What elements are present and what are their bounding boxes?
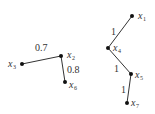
node-x7 (125, 101, 129, 105)
svg-text:5: 5 (140, 75, 143, 81)
svg-text:3: 3 (13, 64, 16, 70)
node-label-x2: x 2 (66, 49, 75, 61)
edge-weight-x1-x4: 1 (111, 26, 116, 37)
node-x3 (20, 62, 24, 66)
svg-text:6: 6 (74, 85, 77, 91)
node-label-x6: x 6 (68, 79, 77, 91)
edge-x3-x2 (22, 56, 61, 64)
edge-weight-x5-x7: 1 (121, 84, 126, 95)
node-label-x4: x 4 (112, 42, 121, 54)
node-label-x5: x 5 (134, 69, 143, 81)
edge-weight-x3-x2: 0.7 (35, 42, 48, 53)
svg-text:2: 2 (72, 55, 75, 61)
edge-weight-x4-x5: 1 (114, 63, 119, 74)
node-x2 (59, 54, 63, 58)
node-label-x7: x 7 (130, 97, 139, 109)
diagram-canvas: 0.7 0.8 x 3 x 2 x 6 1 1 1 x 1 (0, 0, 155, 114)
svg-text:4: 4 (118, 48, 121, 54)
node-x1 (130, 14, 134, 18)
left-tree: 0.7 0.8 x 3 x 2 x 6 (7, 42, 80, 91)
node-label-x3: x 3 (7, 58, 16, 70)
node-x4 (106, 46, 110, 50)
edge-x2-x6 (61, 56, 65, 82)
edge-weight-x2-x6: 0.8 (67, 64, 80, 75)
svg-text:7: 7 (136, 103, 139, 109)
node-x6 (63, 80, 67, 84)
node-x5 (129, 72, 133, 76)
svg-text:1: 1 (143, 16, 146, 22)
right-tree: 1 1 1 x 1 x 4 x 5 x 7 (106, 10, 146, 109)
node-label-x1: x 1 (137, 10, 146, 22)
